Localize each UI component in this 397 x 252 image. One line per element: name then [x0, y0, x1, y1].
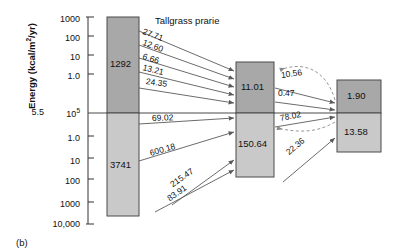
box-producers	[107, 17, 139, 216]
figure-panel-b: Energy (kcal/m2/yr) 1000 100 10 1.0 5.5 …	[0, 0, 397, 252]
flow-arrow-recycle-below	[277, 122, 335, 131]
y-axis	[86, 17, 94, 224]
value-consumers-below: 150.64	[238, 138, 267, 149]
panel-label: (b)	[16, 237, 28, 248]
value-producers-above: 1292	[110, 58, 131, 69]
flow-arrows-into-consumers-below	[155, 160, 234, 212]
box-consumers	[236, 62, 274, 177]
value-consumers-above: 11.01	[241, 81, 264, 92]
diagram-title: Tallgrass prarie	[155, 15, 219, 26]
flow-label-0-47: 0.47	[278, 88, 295, 98]
flow-diagram-canvas	[0, 0, 397, 252]
value-top-below: 13.58	[344, 126, 368, 137]
value-top-above: 1.90	[347, 90, 366, 101]
flow-label-69-02: 69.02	[152, 112, 174, 123]
value-producers-below: 3741	[110, 159, 131, 170]
